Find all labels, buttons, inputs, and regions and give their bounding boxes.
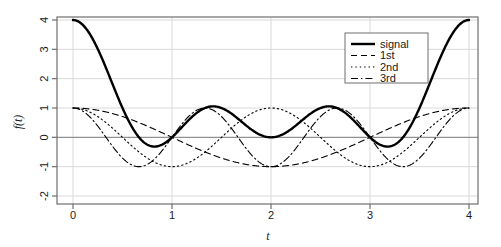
legend-label-2nd: 2nd — [380, 61, 398, 73]
y-tick-label: 2 — [38, 76, 50, 82]
legend-label-signal: signal — [380, 38, 409, 50]
x-tick-label: 1 — [169, 209, 175, 221]
x-tick-label: 3 — [367, 209, 373, 221]
legend-label-1st: 1st — [380, 49, 395, 61]
x-tick-label: 4 — [466, 209, 472, 221]
y-tick-label: 1 — [38, 105, 50, 111]
fourier-series-plot: 43210-1-2 01234 f(t) t signal1st2nd3rd — [0, 0, 501, 247]
y-tick-label: 0 — [38, 134, 50, 140]
chart-figure: 43210-1-2 01234 f(t) t signal1st2nd3rd — [0, 0, 501, 247]
y-axis-title: f(t) — [11, 115, 25, 130]
y-tick-label: 3 — [38, 46, 50, 52]
chart-legend: signal1st2nd3rd — [345, 33, 428, 84]
y-tick-label: 4 — [38, 17, 50, 23]
x-tick-label: 0 — [70, 209, 76, 221]
x-tick-label: 2 — [268, 209, 274, 221]
legend-label-3rd: 3rd — [380, 72, 396, 84]
y-tick-label: -2 — [38, 191, 50, 201]
y-tick-label: -1 — [38, 162, 50, 172]
